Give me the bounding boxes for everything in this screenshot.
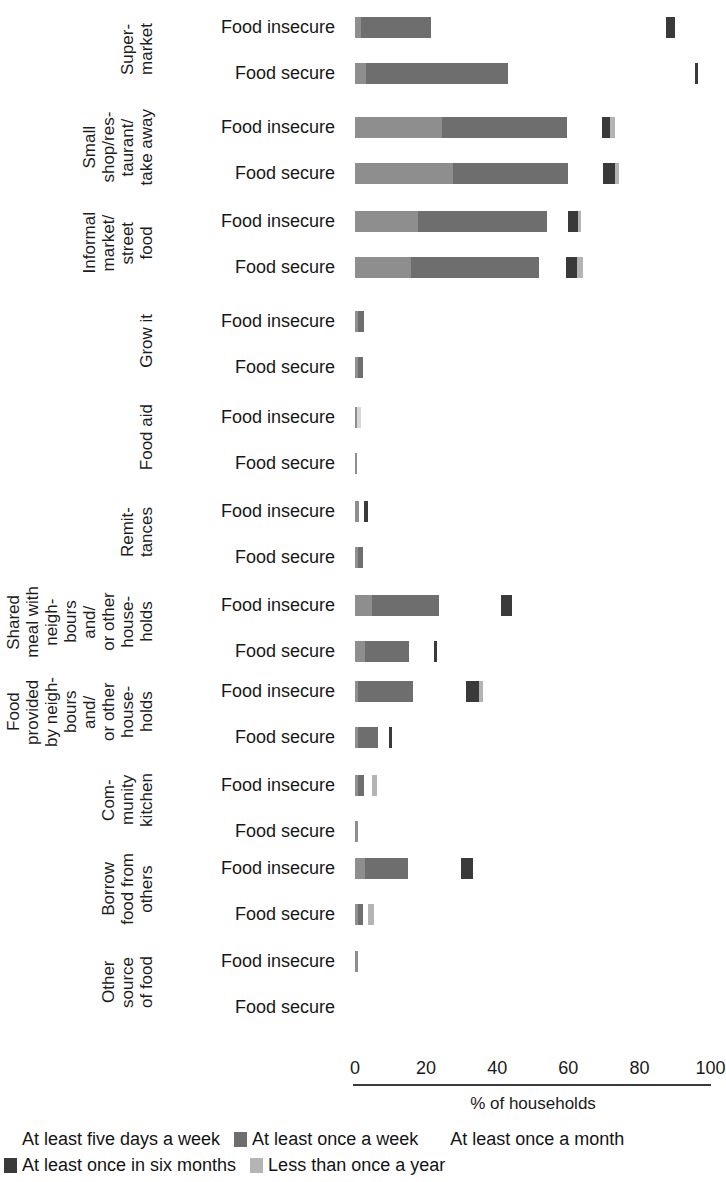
bar-segment [501,595,512,616]
legend-label: At least once a week [252,1129,418,1150]
bar-segment [610,117,615,138]
bar-segment [418,211,547,232]
bar-segment [615,163,619,184]
bar-segment [364,501,368,522]
bar-segment [453,163,568,184]
bar-track [355,938,711,984]
bar-row: Food secure [0,440,726,486]
bar-segment [355,641,365,662]
bar-row-label: Food insecure [160,198,345,244]
bar-track [355,714,711,760]
bar-segment [577,257,583,278]
bar-row-label: Food insecure [160,762,345,808]
bar-segment [372,775,377,796]
bar-track [355,891,711,937]
bar-segment [358,775,364,796]
bar-segment [355,821,358,842]
legend-swatch [250,1158,263,1173]
bar-row-label: Food secure [160,714,345,760]
x-tick-80: 80 [629,1058,649,1079]
bar-segment [355,501,359,522]
bar-track [355,762,711,808]
bar-track [355,198,711,244]
x-axis-tick-labels: 020406080100 [0,1058,726,1082]
bar-track [355,668,711,714]
bar-row-label: Food secure [160,244,345,290]
bar-segment [355,163,453,184]
legend-item: At least five days a week [4,1129,220,1150]
x-tick-100: 100 [695,1058,725,1079]
bar-segment [479,681,483,702]
bar-track [355,50,711,96]
legend-label: At least five days a week [22,1129,220,1150]
x-tick-0: 0 [350,1058,360,1079]
legend-swatch [234,1132,247,1147]
legend-swatch [4,1132,17,1147]
bar-segment [355,63,366,84]
bar-row-label: Food secure [160,344,345,390]
bar-track [355,984,711,1030]
bar-track [355,244,711,290]
bar-row: Food insecure [0,668,726,714]
x-tick-40: 40 [487,1058,507,1079]
chart-legend: At least five days a weekAt least once a… [4,1126,722,1178]
plot-area: Super- marketFood insecureFood secureSma… [0,0,726,1020]
bar-row-label: Food insecure [160,668,345,714]
bar-segment [355,595,372,616]
stacked-bar-chart: Super- marketFood insecureFood secureSma… [0,0,726,1182]
bar-segment [355,858,365,879]
legend-row-1: At least five days a weekAt least once a… [4,1126,722,1152]
bar-segment [355,211,418,232]
legend-item: Less than once a year [250,1155,445,1176]
bar-row: Food insecure [0,845,726,891]
bar-row: Food insecure [0,488,726,534]
bar-segment [434,641,437,662]
bar-track [355,298,711,344]
bar-row: Food secure [0,244,726,290]
bar-row: Food insecure [0,104,726,150]
bar-row-label: Food insecure [160,488,345,534]
bar-segment [389,727,392,748]
bar-segment [355,117,442,138]
bar-segment [666,17,675,38]
bar-segment [461,858,473,879]
bar-segment [365,858,408,879]
bar-row-label: Food insecure [160,582,345,628]
bar-segment [355,257,411,278]
bar-row-label: Food insecure [160,298,345,344]
bar-row-label: Food secure [160,891,345,937]
bar-segment [695,63,698,84]
legend-swatch [432,1132,445,1147]
legend-swatch [4,1158,17,1173]
legend-label: At least once in six months [22,1155,236,1176]
x-axis-title: % of households [355,1094,711,1114]
bar-track [355,394,711,440]
bar-row-label: Food secure [160,150,345,196]
bar-track [355,845,711,891]
legend-row-2: At least once in six monthsLess than onc… [4,1152,722,1178]
bar-segment [442,117,567,138]
x-axis-line [353,1084,711,1086]
legend-label: At least once a month [450,1129,624,1150]
bar-row: Food secure [0,714,726,760]
bar-segment [466,681,479,702]
bar-segment [365,641,409,662]
bar-track [355,582,711,628]
bar-segment [357,407,361,428]
x-tick-20: 20 [416,1058,436,1079]
bar-segment [355,453,357,474]
bar-segment [355,951,358,972]
bar-segment [368,904,374,925]
bar-segment [358,727,378,748]
bar-row-label: Food insecure [160,4,345,50]
bar-row-label: Food insecure [160,938,345,984]
bar-row: Food secure [0,50,726,96]
bar-row-label: Food insecure [160,394,345,440]
bar-track [355,344,711,390]
legend-label: Less than once a year [268,1155,445,1176]
bar-row: Food insecure [0,938,726,984]
bar-segment [358,311,364,332]
bar-track [355,440,711,486]
bar-track [355,488,711,534]
bar-segment [358,547,363,568]
